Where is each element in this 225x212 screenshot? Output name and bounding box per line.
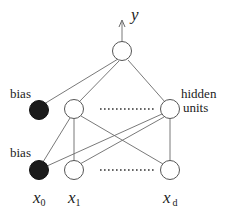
input-bias-label: bias [10,145,31,160]
hidden-node-d [161,100,180,119]
input-bias-node [30,161,49,180]
edge-output-bias [44,59,118,104]
neural-network-diagram: y bias hidden units bias x0 x1 xd [0,0,225,212]
edge-output-hidden-d [128,60,165,102]
hidden-units-label-1: hidden [181,86,217,101]
input-label-x1: x1 [67,188,81,208]
input-node-x1 [65,161,84,180]
hidden-bias-node [30,101,49,120]
output-node [113,42,132,61]
output-label: y [129,5,139,24]
hidden-units-label-2: units [183,100,208,115]
input-label-xd: xd [162,188,178,208]
hidden-node-1 [65,100,84,119]
edge-hiddend-x0 [47,114,162,166]
input-node-xd [161,161,180,180]
edge-hidden1-x0 [43,118,70,162]
hidden-bias-label: bias [10,86,31,101]
input-label-x0: x0 [32,188,46,208]
edge-output-hidden-1 [79,61,119,102]
